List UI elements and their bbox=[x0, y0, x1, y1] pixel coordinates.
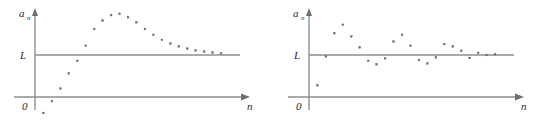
data-point bbox=[427, 63, 429, 65]
data-point-group-left bbox=[43, 13, 222, 114]
origin-label-left: 0 bbox=[22, 100, 28, 112]
data-point bbox=[469, 57, 471, 59]
data-point bbox=[161, 39, 163, 41]
chart-panel-right: a n L 0 n bbox=[274, 0, 548, 126]
y-axis-label-left: a bbox=[19, 7, 25, 19]
data-point bbox=[460, 50, 462, 52]
data-point bbox=[384, 57, 386, 59]
data-point bbox=[367, 60, 369, 62]
data-point bbox=[59, 88, 61, 90]
x-axis-label-right: n bbox=[521, 100, 527, 112]
y-axis-arrowhead-left bbox=[32, 8, 38, 16]
limit-label-right: L bbox=[293, 49, 300, 61]
chart-panel-left: a n L 0 n bbox=[0, 0, 274, 126]
data-point bbox=[102, 20, 104, 22]
data-point bbox=[169, 43, 171, 45]
data-point bbox=[212, 52, 214, 54]
data-point bbox=[85, 45, 87, 47]
data-point bbox=[43, 112, 45, 114]
data-point bbox=[317, 84, 319, 86]
data-point bbox=[153, 34, 155, 36]
y-axis-label-right: a bbox=[293, 7, 299, 19]
chart-svg-left: a n L 0 n bbox=[0, 0, 274, 126]
chart-svg-right: a n L 0 n bbox=[274, 0, 548, 126]
data-point bbox=[119, 13, 121, 15]
data-point bbox=[401, 34, 403, 36]
data-point bbox=[93, 28, 95, 30]
origin-label-right: 0 bbox=[296, 100, 302, 112]
limit-label-left: L bbox=[19, 49, 26, 61]
data-point bbox=[333, 32, 335, 34]
data-point bbox=[76, 60, 78, 62]
data-point bbox=[325, 56, 327, 58]
data-point bbox=[195, 49, 197, 51]
data-point bbox=[127, 16, 129, 18]
data-point bbox=[144, 28, 146, 30]
axes-left bbox=[14, 8, 250, 110]
data-point bbox=[203, 51, 205, 53]
axes-right bbox=[288, 8, 524, 110]
y-axis-arrowhead-right bbox=[306, 8, 312, 16]
data-point bbox=[494, 53, 496, 55]
data-point bbox=[418, 59, 420, 61]
data-point bbox=[477, 52, 479, 54]
data-point bbox=[443, 43, 445, 45]
x-axis-label-left: n bbox=[247, 100, 253, 112]
data-point bbox=[410, 45, 412, 47]
data-point bbox=[376, 63, 378, 65]
data-point bbox=[186, 48, 188, 50]
y-axis-label-sub-left: n bbox=[27, 14, 31, 22]
data-point bbox=[342, 24, 344, 26]
data-point bbox=[359, 47, 361, 49]
data-point bbox=[68, 73, 70, 75]
data-point bbox=[136, 21, 138, 23]
data-point bbox=[110, 14, 112, 16]
data-point bbox=[435, 57, 437, 59]
y-axis-label-sub-right: n bbox=[301, 14, 305, 22]
data-point bbox=[51, 100, 53, 102]
limit-of-sequence-figure: a n L 0 n a n L 0 n bbox=[0, 0, 548, 126]
data-point bbox=[220, 52, 222, 54]
data-point bbox=[178, 46, 180, 48]
data-point bbox=[393, 41, 395, 43]
data-point bbox=[452, 46, 454, 48]
data-point bbox=[350, 36, 352, 38]
data-point bbox=[486, 54, 488, 56]
